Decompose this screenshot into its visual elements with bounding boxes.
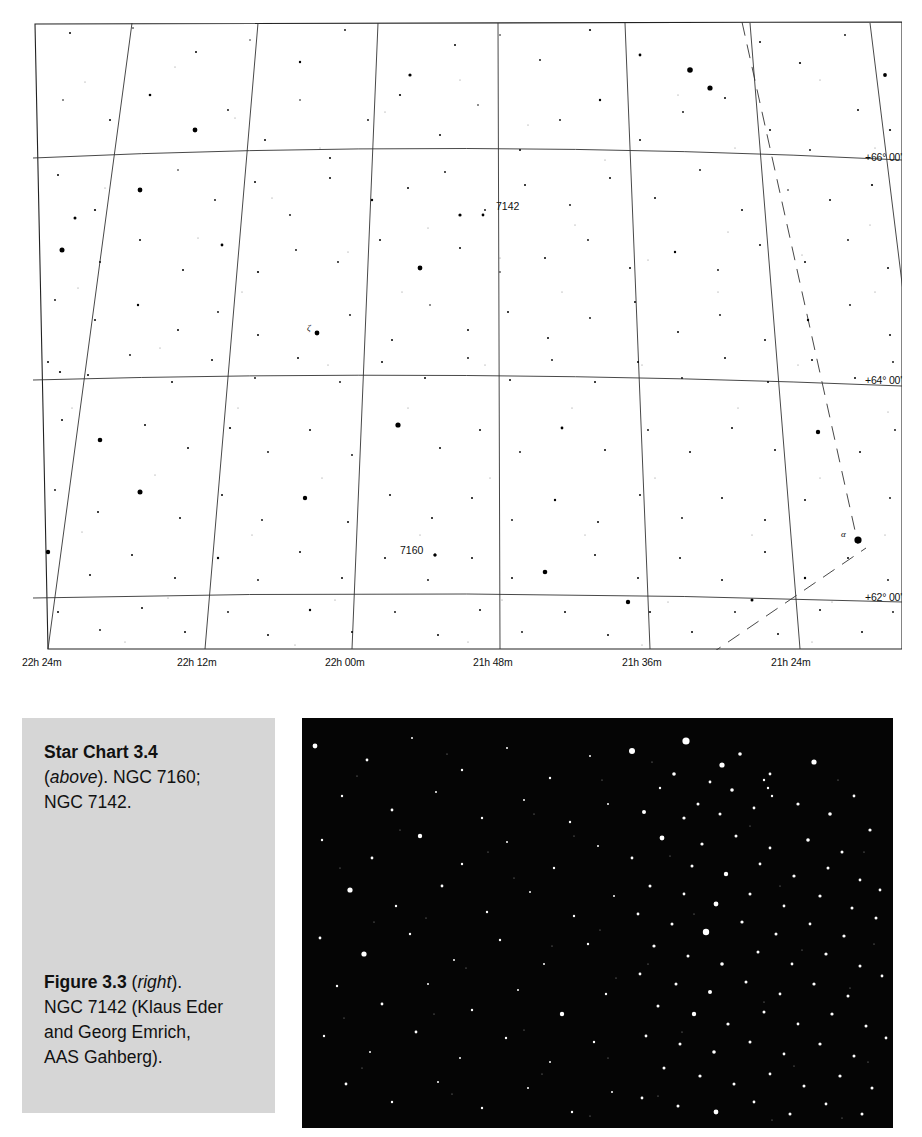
ra-label-22h12m: 22h 12m: [177, 656, 216, 668]
dec-label-plus64: +64° 00': [865, 374, 902, 386]
chart-plot-area: 22h 24m 22h 12m 22h 00m 21h 48m 21h 36m …: [30, 20, 902, 650]
ra-label-21h36m: 21h 36m: [622, 656, 661, 668]
ra-label-22h00m: 22h 00m: [325, 656, 364, 668]
dec-label-plus62: +62° 00': [865, 591, 902, 603]
star-chart-caption-title: Star Chart 3.4: [44, 742, 158, 762]
ngc-7160-marker: [433, 553, 436, 556]
figure-caption: Figure 3.3 (right). NGC 7142 (Klaus Eder…: [44, 970, 259, 1070]
ra-label-22h24m: 22h 24m: [22, 656, 61, 668]
photo-background: [302, 718, 893, 1128]
figure-caption-position: right: [137, 972, 171, 992]
figure-caption-title: Figure 3.3: [44, 972, 127, 992]
figure-caption-line2: NGC 7142 (Klaus Eder: [44, 997, 223, 1017]
greek-label-zeta: ζ: [307, 323, 311, 333]
figure-caption-close: ).: [171, 972, 182, 992]
caption-panel: Star Chart 3.4 (above). NGC 7160; NGC 71…: [22, 718, 275, 1113]
dec-label-plus66: +66° 00': [865, 151, 902, 163]
star-chart-caption-line2: NGC 7142.: [44, 792, 132, 812]
figure-caption-line4: AAS Gahberg).: [44, 1047, 163, 1067]
ngc7142-photograph: [302, 718, 893, 1128]
star-chart-figure: 22h 24m 22h 12m 22h 00m 21h 48m 21h 36m …: [0, 0, 922, 700]
chart-background: [30, 20, 902, 650]
ra-label-21h24m: 21h 24m: [771, 656, 810, 668]
star-chart-svg: [30, 20, 902, 650]
greek-label-alpha: α: [841, 529, 846, 539]
object-label-ngc7142: 7142: [496, 200, 519, 212]
star-chart-caption-position: above: [50, 767, 98, 787]
figure-caption-line3: and Georg Emrich,: [44, 1022, 191, 1042]
star-chart-caption-line1: ). NGC 7160;: [98, 767, 201, 787]
ngc-7142-marker: [458, 213, 461, 216]
star-chart-caption: Star Chart 3.4 (above). NGC 7160; NGC 71…: [44, 740, 255, 815]
ra-label-21h48m: 21h 48m: [473, 656, 512, 668]
ngc7142-photo-svg: [302, 718, 893, 1128]
object-label-ngc7160: 7160: [400, 544, 423, 556]
